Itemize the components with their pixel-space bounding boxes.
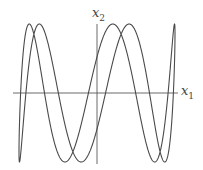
x1-label-subscript: 1 — [188, 91, 194, 101]
x2-axis-label: x2 — [92, 6, 105, 23]
x2-label-subscript: 2 — [99, 13, 105, 23]
x1-axis-label: x1 — [181, 84, 194, 101]
lissajous-figure — [0, 0, 203, 170]
